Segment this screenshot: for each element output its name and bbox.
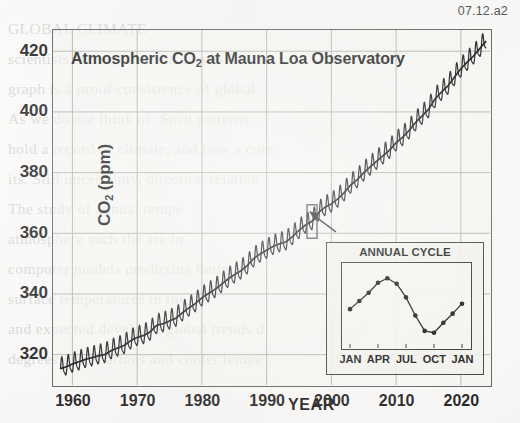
x-tick-label: 1960 bbox=[43, 392, 103, 410]
chart-title-rest: at Mauna Loa Observatory bbox=[202, 50, 405, 67]
inset-annual-cycle-panel: ANNUAL CYCLE JANAPRJULOCTJAN bbox=[326, 242, 484, 375]
chart-plot-area: Atmospheric CO2 at Mauna Loa Observatory… bbox=[52, 29, 492, 387]
chart-title: Atmospheric CO2 at Mauna Loa Observatory bbox=[71, 50, 405, 69]
inset-x-tick-label: JAN bbox=[442, 353, 482, 365]
y-axis-title-rest: (ppm) bbox=[95, 144, 114, 195]
inset-data-point bbox=[357, 299, 362, 304]
inset-plot-area bbox=[341, 262, 472, 350]
inset-data-point bbox=[385, 276, 390, 281]
x-tick-label: 1990 bbox=[237, 392, 297, 410]
inset-data-point bbox=[394, 281, 399, 286]
inset-data-point bbox=[376, 281, 381, 286]
inset-data-point bbox=[348, 307, 353, 312]
x-tick-label: 1970 bbox=[108, 392, 168, 410]
inset-data-point bbox=[404, 295, 409, 300]
y-tick-label: 400 bbox=[4, 101, 48, 121]
y-tick-label: 420 bbox=[4, 41, 48, 61]
x-tick-label: 1980 bbox=[172, 392, 232, 410]
y-axis-title-subscript: 2 bbox=[103, 195, 115, 201]
inset-data-point bbox=[413, 313, 418, 318]
y-axis-tick-labels: 320340360380400420 bbox=[0, 29, 48, 387]
y-axis-title-main: CO bbox=[95, 201, 114, 226]
x-axis-tick-labels: 1960197019801990200020102020 bbox=[52, 392, 492, 418]
inset-annual-cycle-curve bbox=[342, 263, 470, 348]
x-tick-label: 2010 bbox=[367, 392, 427, 410]
inset-data-point bbox=[450, 311, 455, 316]
x-tick-label: 2000 bbox=[302, 392, 362, 410]
inset-data-point bbox=[422, 329, 427, 334]
inset-title: ANNUAL CYCLE bbox=[327, 246, 483, 258]
chart-title-main: Atmospheric CO bbox=[71, 50, 196, 67]
figure-label: 07.12.a2 bbox=[458, 4, 508, 18]
inset-data-point bbox=[460, 301, 465, 306]
inset-data-point bbox=[366, 290, 371, 295]
x-tick-label: 2020 bbox=[431, 392, 491, 410]
y-axis-title: CO2 (ppm) bbox=[95, 125, 115, 245]
y-tick-label: 340 bbox=[4, 283, 48, 303]
inset-x-axis-tick-labels: JANAPRJULOCTJAN bbox=[327, 353, 483, 369]
inset-data-point bbox=[441, 320, 446, 325]
y-tick-label: 360 bbox=[4, 223, 48, 243]
y-tick-label: 320 bbox=[4, 344, 48, 364]
y-tick-label: 380 bbox=[4, 162, 48, 182]
inset-data-point bbox=[432, 330, 437, 335]
